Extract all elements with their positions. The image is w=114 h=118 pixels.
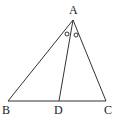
triangle-diagram: A B D C (0, 0, 114, 118)
segment-ab (8, 20, 73, 101)
label-b: B (2, 103, 10, 117)
label-c: C (104, 103, 112, 117)
angle-mark-dac (74, 33, 78, 37)
angle-mark-bad (65, 32, 69, 36)
label-a: A (69, 3, 78, 17)
segment-ac (73, 20, 106, 101)
label-d: D (54, 103, 63, 117)
